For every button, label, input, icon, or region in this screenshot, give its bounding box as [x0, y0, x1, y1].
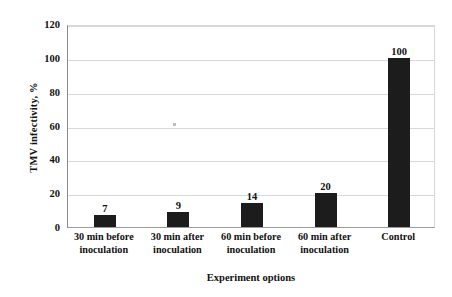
- x-axis-tick-label: 60 min afterinoculation: [298, 231, 351, 256]
- bar: [315, 193, 337, 227]
- y-axis-tick-label: 60: [26, 121, 60, 132]
- bar: [241, 203, 263, 227]
- y-axis-tick-label: 40: [26, 155, 60, 166]
- bar-chart-figure: TMV infectivity, % 020406080100120 79142…: [0, 0, 452, 297]
- x-axis-tick-label-line: 60 min after: [298, 231, 351, 244]
- y-axis-tick-labels: 020406080100120: [26, 0, 60, 297]
- bar-value-label: 9: [176, 200, 181, 211]
- bar-value-label: 7: [102, 203, 107, 214]
- x-axis-tick-label: 60 min beforeinoculation: [221, 231, 281, 256]
- y-axis-tick-label: 0: [26, 223, 60, 234]
- y-axis-tick-label: 20: [26, 189, 60, 200]
- x-axis-tick-labels: 30 min beforeinoculation30 min afterinoc…: [67, 231, 435, 271]
- x-axis-tick-label: 30 min beforeinoculation: [74, 231, 134, 256]
- gridline: [68, 26, 434, 27]
- plot-area: 791420100: [67, 25, 435, 228]
- y-axis-tick-label: 80: [26, 87, 60, 98]
- x-axis-tick-label-line: 30 min after: [151, 231, 204, 244]
- bar: [94, 215, 116, 227]
- x-axis-tick-label-line: inoculation: [151, 244, 204, 257]
- x-axis-tick-label-line: 60 min before: [221, 231, 281, 244]
- x-axis-tick-label-line: 30 min before: [74, 231, 134, 244]
- y-axis-tick-label: 100: [26, 54, 60, 65]
- x-axis-tick-label-line: inoculation: [221, 244, 281, 257]
- bar: [388, 58, 410, 227]
- x-axis-tick-label-line: inoculation: [74, 244, 134, 257]
- bar-value-label: 20: [320, 181, 331, 192]
- gridline: [68, 94, 434, 95]
- x-axis-tick-label-line: inoculation: [298, 244, 351, 257]
- bar-value-label: 14: [247, 191, 258, 202]
- gridline: [68, 128, 434, 129]
- x-axis-tick-label: 30 min afterinoculation: [151, 231, 204, 256]
- gridline: [68, 60, 434, 61]
- x-axis-tick-label: Control: [381, 231, 415, 244]
- scan-artifact-speck: [173, 123, 176, 126]
- x-axis-title: Experiment options: [67, 272, 435, 283]
- y-axis-tick-label: 120: [26, 20, 60, 31]
- x-axis-tick-label-line: Control: [381, 231, 415, 244]
- gridline: [68, 161, 434, 162]
- bar-value-label: 100: [391, 46, 407, 57]
- bar: [167, 212, 189, 227]
